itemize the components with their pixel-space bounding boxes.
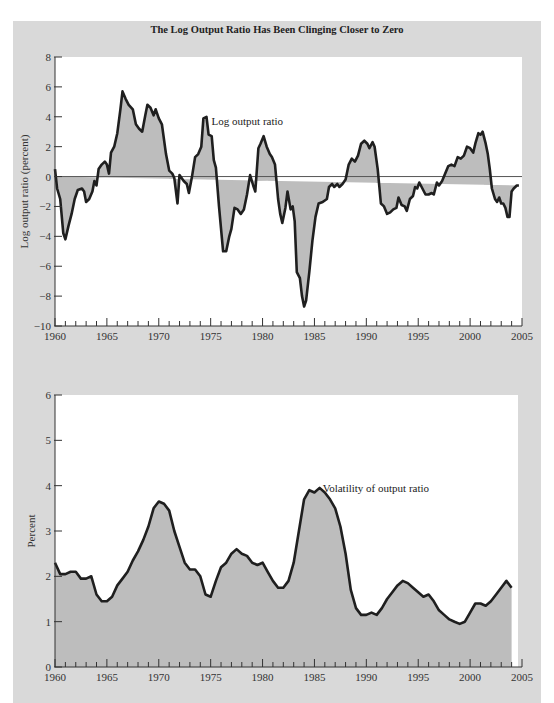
x-tick-label: 1970 [148,671,171,683]
y-tick-label: 5 [46,434,52,446]
y-tick-label: 4 [46,111,52,123]
log-output-ratio-label: Log output ratio [212,115,284,127]
top-y-axis-title: Log output ratio (percent) [18,134,31,248]
x-tick-label: 2005 [511,330,534,342]
x-tick-label: 1980 [252,671,275,683]
x-tick-label: 1970 [148,330,171,342]
x-tick-label: 1990 [355,330,378,342]
y-tick-label: 2 [46,141,52,153]
y-tick-label: 2 [46,570,52,582]
y-tick-label: −2 [39,200,51,212]
y-tick-label: 3 [46,525,52,537]
x-tick-label: 1995 [407,330,430,342]
x-tick-label: 1960 [44,330,67,342]
x-tick-label: 1975 [200,671,223,683]
bottom-y-axis-title: Percent [25,515,37,548]
y-tick-label: 0 [46,171,52,183]
x-tick-label: 1975 [200,330,223,342]
x-tick-label: 1980 [252,330,275,342]
y-tick-label: 6 [46,389,52,401]
x-tick-label: 1990 [355,671,378,683]
log-output-ratio-chart: 86420−2−4−6−8−10196019651970197519801985… [18,51,534,342]
x-tick-label: 1965 [96,671,119,683]
y-tick-label: 1 [46,616,52,628]
y-tick-label: −6 [39,260,51,272]
volatility-label: Volatility of output ratio [323,482,430,494]
y-tick-label: 6 [46,81,52,93]
y-tick-label: 8 [46,51,52,63]
x-tick-label: 2000 [459,330,482,342]
y-tick-label: −8 [39,290,51,302]
y-tick-label: 4 [46,480,52,492]
y-tick-label: −4 [39,230,51,242]
x-tick-label: 1985 [303,330,326,342]
x-tick-label: 2000 [459,671,482,683]
volatility-chart: 6543210196019651970197519801985199019952… [25,389,534,683]
x-tick-label: 1985 [303,671,326,683]
x-tick-label: 1995 [407,671,430,683]
x-tick-label: 2005 [511,671,534,683]
chart-canvas: 86420−2−4−6−8−10196019651970197519801985… [0,0,554,703]
x-tick-label: 1965 [96,330,119,342]
x-tick-label: 1960 [44,671,67,683]
